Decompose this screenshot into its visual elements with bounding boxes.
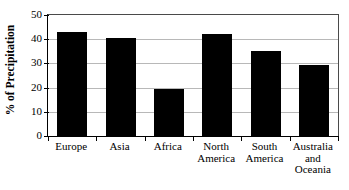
x-axis-tick-label: Africa [144, 141, 192, 153]
x-axis-tick-label-line: America [192, 153, 240, 165]
x-axis-tick-label-line: Africa [144, 141, 192, 153]
x-axis-tick-label-line: South [240, 141, 288, 153]
x-axis-tick-labels: EuropeAsiaAfricaNorthAmericaSouthAmerica… [47, 141, 337, 190]
bar [251, 51, 281, 136]
y-axis-tick [44, 112, 49, 113]
bar [57, 32, 87, 136]
gridline [48, 39, 338, 40]
x-axis-tick-label: Europe [47, 141, 95, 153]
y-axis-tick-label: 40 [31, 33, 42, 44]
x-axis-tick-label: AustraliaandOceania [289, 141, 337, 176]
gridline [48, 63, 338, 64]
x-axis-tick-label: NorthAmerica [192, 141, 240, 164]
y-axis-title: % of Precipitation [0, 0, 20, 140]
bar-chart: % of Precipitation 01020304050 EuropeAsi… [0, 0, 349, 190]
gridline [48, 112, 338, 113]
x-axis-tick-label-line: Oceania [289, 164, 337, 176]
y-axis-tick-label: 30 [31, 57, 42, 68]
x-axis-tick-label: SouthAmerica [240, 141, 288, 164]
x-axis-tick-label-line: North [192, 141, 240, 153]
x-axis-tick-label-line: Europe [47, 141, 95, 153]
x-axis-tick-label-line: Asia [95, 141, 143, 153]
x-axis-tick [338, 136, 339, 141]
y-axis-tick-labels: 01020304050 [20, 8, 45, 136]
bar [106, 38, 136, 136]
y-axis-tick [44, 88, 49, 89]
bar [299, 65, 329, 136]
y-axis-tick [44, 39, 49, 40]
y-axis-tick [44, 15, 49, 16]
bar [154, 89, 184, 136]
x-axis-tick-label: Asia [95, 141, 143, 153]
y-axis-tick-label: 0 [37, 130, 43, 141]
plot-area [47, 14, 339, 136]
x-axis-tick-label-line: Australia [289, 141, 337, 153]
x-axis-tick-label-line: America [240, 153, 288, 165]
y-axis-tick-label: 50 [31, 9, 42, 20]
gridline [48, 88, 338, 89]
y-axis-title-text: % of Precipitation [4, 25, 16, 116]
y-axis-tick [44, 63, 49, 64]
y-axis-tick-label: 20 [31, 81, 42, 92]
bar [202, 34, 232, 136]
y-axis-tick-label: 10 [31, 105, 42, 116]
